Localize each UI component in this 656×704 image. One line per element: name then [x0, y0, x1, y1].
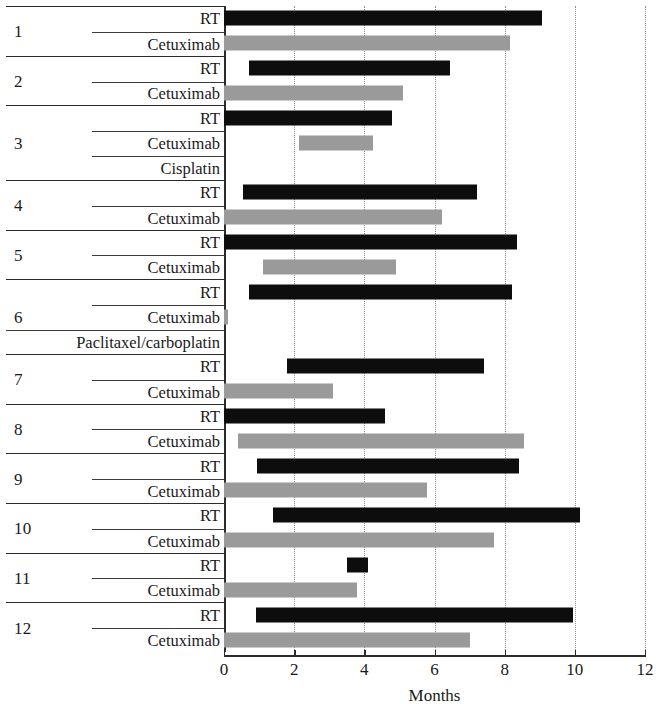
drug-bar	[224, 582, 357, 597]
treatment-label-list: RTCetuximab	[6, 454, 224, 504]
bar-lane	[224, 627, 656, 652]
treatment-label-list: RTCetuximab	[6, 504, 224, 554]
treatment-label: RT	[6, 181, 224, 206]
rt-bar	[224, 110, 392, 125]
drug-bar	[224, 533, 494, 548]
bar-lane	[224, 205, 656, 230]
treatment-label-list: RTCetuximabPaclitaxel/carboplatin	[6, 280, 224, 355]
bar-lane	[224, 155, 656, 180]
x-axis-tick	[294, 650, 295, 657]
patient-row-group: 5RTCetuximab	[6, 230, 224, 280]
bar-lane	[224, 577, 656, 602]
rt-bar	[347, 557, 368, 572]
bar-lane	[224, 56, 656, 81]
patient-number: 4	[14, 197, 23, 214]
treatment-label-list: RTCetuximab	[6, 57, 224, 107]
patient-row-group: 7RTCetuximab	[6, 354, 224, 404]
patient-number: 12	[14, 619, 31, 636]
treatment-label-list: RTCetuximabCisplatin	[6, 106, 224, 181]
treatment-label-list: RTCetuximab	[6, 554, 224, 604]
treatment-label-list: RTCetuximab	[6, 355, 224, 405]
bar-lane	[224, 180, 656, 205]
rt-bar	[224, 408, 385, 423]
x-axis-tick	[505, 650, 506, 657]
treatment-label-list: RTCetuximab	[6, 603, 224, 653]
drug-bar	[224, 85, 403, 100]
bar-lane	[224, 279, 656, 304]
rt-bar	[257, 458, 518, 473]
patient-row-group: 3RTCetuximabCisplatin	[6, 105, 224, 180]
treatment-label: RT	[6, 355, 224, 380]
rt-bar	[249, 61, 451, 76]
treatment-label: Cetuximab	[92, 429, 224, 454]
treatment-label: RT	[6, 106, 224, 131]
patient-row-group: 10RTCetuximab	[6, 503, 224, 553]
rt-bar	[224, 11, 542, 26]
drug-bar	[224, 210, 442, 225]
bar-lane	[224, 404, 656, 429]
bar-lane	[224, 428, 656, 453]
bar-lane	[224, 230, 656, 255]
x-axis-tick	[224, 650, 225, 657]
treatment-label: Cetuximab	[92, 131, 224, 156]
patient-row-group: 2RTCetuximab	[6, 56, 224, 106]
bar-lane	[224, 478, 656, 503]
treatment-label: Cetuximab	[92, 255, 224, 280]
x-axis-tick	[435, 650, 436, 657]
treatment-label: RT	[6, 504, 224, 529]
rt-bar	[224, 235, 517, 250]
bar-lane	[224, 553, 656, 578]
patient-number: 7	[14, 371, 23, 388]
treatment-label-list: RTCetuximab	[6, 7, 224, 57]
patient-row-group: 12RTCetuximab	[6, 602, 224, 652]
patient-row-group: 9RTCetuximab	[6, 453, 224, 503]
treatment-label: Cetuximab	[92, 628, 224, 653]
treatment-label: Cetuximab	[92, 578, 224, 603]
patient-number: 3	[14, 135, 23, 152]
patient-row-group: 11RTCetuximab	[6, 553, 224, 603]
treatment-label: RT	[6, 57, 224, 82]
treatment-label: Cetuximab	[92, 305, 224, 330]
x-axis-tick-label: 0	[220, 661, 229, 678]
treatment-label: RT	[6, 7, 224, 32]
drug-bar	[224, 632, 470, 647]
x-axis-tick-label: 10	[566, 661, 583, 678]
treatment-label-list: RTCetuximab	[6, 181, 224, 231]
treatment-label-list: RTCetuximab	[6, 405, 224, 455]
x-axis-tick-label: 8	[500, 661, 509, 678]
bar-lane	[224, 503, 656, 528]
x-axis-tick	[364, 650, 365, 657]
rt-bar	[256, 607, 574, 622]
treatment-label: Cetuximab	[92, 32, 224, 57]
x-axis-tick-label: 4	[360, 661, 369, 678]
drug-bar	[224, 309, 228, 324]
patient-number: 11	[14, 569, 31, 586]
drug-bar	[224, 384, 333, 399]
bar-lane	[224, 329, 656, 354]
patient-number: 2	[14, 73, 23, 90]
patient-row-group: 4RTCetuximab	[6, 180, 224, 230]
patient-number: 8	[14, 420, 23, 437]
treatment-label: Cetuximab	[92, 82, 224, 107]
rt-bar	[243, 185, 476, 200]
bar-lane	[224, 602, 656, 627]
bar-lane	[224, 379, 656, 404]
bars-area	[224, 6, 656, 652]
treatment-label: Cetuximab	[92, 479, 224, 504]
patient-label-column: 1RTCetuximab2RTCetuximab3RTCetuximabCisp…	[6, 6, 224, 652]
bar-lane	[224, 81, 656, 106]
bar-lane	[224, 130, 656, 155]
treatment-label-list: RTCetuximab	[6, 231, 224, 281]
patient-number: 5	[14, 246, 23, 263]
gantt-chart: 1RTCetuximab2RTCetuximab3RTCetuximabCisp…	[0, 0, 656, 704]
treatment-label: Cetuximab	[92, 206, 224, 231]
x-axis-title: Months	[224, 686, 645, 704]
x-axis-tick	[645, 650, 646, 657]
patient-number: 6	[14, 309, 23, 326]
bar-lane	[224, 31, 656, 56]
bar-lane	[224, 304, 656, 329]
drug-bar	[224, 483, 427, 498]
bar-lane	[224, 354, 656, 379]
rt-bar	[249, 284, 512, 299]
bar-lane	[224, 528, 656, 553]
